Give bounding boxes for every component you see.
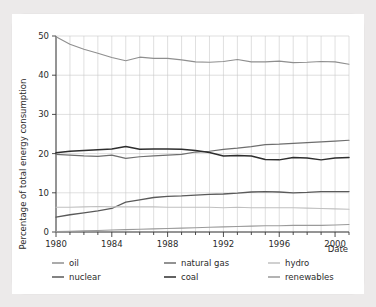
legend-label: oil bbox=[69, 258, 79, 268]
x-tick-label: 1984 bbox=[101, 239, 123, 249]
x-tick-label: 1996 bbox=[268, 239, 290, 249]
line-chart: 198019841988199219962000 01020304050 Per… bbox=[12, 14, 364, 294]
x-tick-label: 1992 bbox=[213, 239, 235, 249]
legend-label: coal bbox=[181, 272, 198, 282]
x-tick-label: 1980 bbox=[45, 239, 67, 249]
legend-label: nuclear bbox=[69, 272, 101, 282]
legend-label: renewables bbox=[285, 272, 334, 282]
y-tick-label: 30 bbox=[38, 109, 49, 119]
chart-figure: 198019841988199219962000 01020304050 Per… bbox=[12, 14, 364, 294]
y-tick-label: 20 bbox=[38, 149, 49, 159]
chart-card: 198019841988199219962000 01020304050 Per… bbox=[12, 14, 364, 294]
legend-label: natural gas bbox=[181, 258, 230, 268]
y-tick-label: 10 bbox=[38, 188, 49, 198]
legend-label: hydro bbox=[285, 258, 309, 268]
x-tick-label: 1988 bbox=[157, 239, 179, 249]
y-tick-label: 50 bbox=[38, 31, 49, 41]
y-tick-label: 40 bbox=[38, 70, 49, 80]
plot-background bbox=[12, 14, 364, 294]
x-axis-title: Date bbox=[328, 244, 348, 254]
y-tick-label: 0 bbox=[44, 227, 49, 237]
y-axis-title: Percentage of total energy consumption bbox=[18, 79, 28, 250]
